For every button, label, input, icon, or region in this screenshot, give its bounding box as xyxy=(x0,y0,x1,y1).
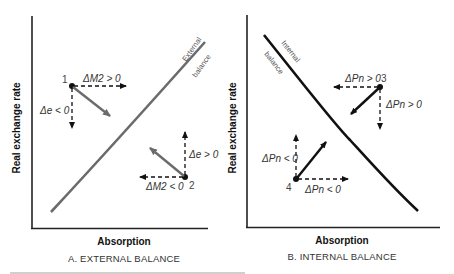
point-3-number: 3 xyxy=(381,73,387,84)
point-1-resultant-arrow xyxy=(73,87,110,116)
panel-b-y-axis-label: Real exchange rate xyxy=(227,82,238,174)
point-3-vertical-label: ΔPn > 0 xyxy=(385,99,422,110)
point-2-vertical-label: Δe > 0 xyxy=(188,149,219,160)
panel-a-y-axis-label: Real exchange rate xyxy=(11,82,22,174)
point-4: 4 ΔPn < 0 ΔPn < 0 xyxy=(261,135,348,195)
point-4-horizontal-label: ΔPn < 0 xyxy=(304,184,341,195)
point-4-resultant-arrow xyxy=(297,142,326,178)
panel-a-caption: A. EXTERNAL BALANCE xyxy=(68,253,180,264)
panel-a-x-axis-label: Absorption xyxy=(97,236,150,247)
point-4-number: 4 xyxy=(286,182,292,193)
point-3: 3 ΔPn > 0 ΔPn > 0 xyxy=(334,73,422,129)
point-1-vertical-label: Δe < 0 xyxy=(39,105,70,116)
point-4-vertical-label: ΔPn < 0 xyxy=(261,153,298,164)
panel-a-external-balance: Real exchange rate External balance 1 ΔM… xyxy=(11,16,219,264)
point-2: 2 Δe > 0 ΔM2 < 0 xyxy=(140,132,219,192)
point-1: 1 ΔM2 > 0 Δe < 0 xyxy=(39,73,126,128)
internal-balance-label-line2: balance xyxy=(262,50,285,76)
point-2-resultant-arrow xyxy=(150,148,184,176)
panel-b-x-axis-label: Absorption xyxy=(315,235,368,246)
panel-b-internal-balance: Real exchange rate Internal balance 3 ΔP… xyxy=(227,15,440,262)
diagram-figure: Real exchange rate External balance 1 ΔM… xyxy=(0,0,454,274)
panel-b-caption: B. INTERNAL BALANCE xyxy=(287,251,396,262)
point-3-resultant-arrow xyxy=(351,88,379,114)
point-1-number: 1 xyxy=(62,74,68,85)
point-2-number: 2 xyxy=(189,180,195,191)
point-1-horizontal-label: ΔM2 > 0 xyxy=(82,73,121,84)
point-2-horizontal-label: ΔM2 < 0 xyxy=(145,181,184,192)
point-3-horizontal-label: ΔPn > 0 xyxy=(344,73,381,84)
